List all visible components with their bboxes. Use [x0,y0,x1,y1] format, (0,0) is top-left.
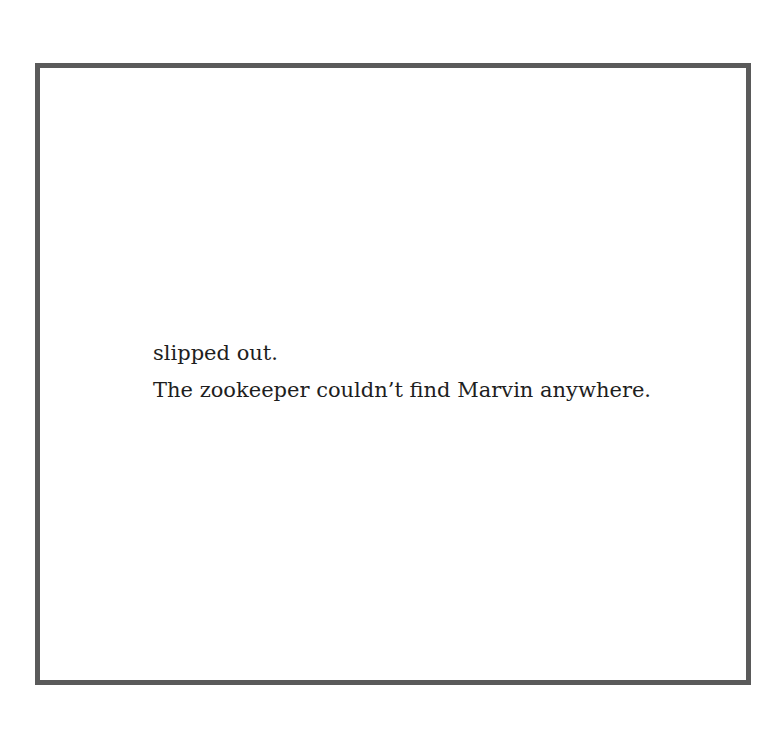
story-text: slipped out. The zookeeper couldn’t find… [153,335,651,409]
story-line-1: slipped out. [153,335,651,372]
story-line-2: The zookeeper couldn’t find Marvin anywh… [153,372,651,409]
page-frame: slipped out. The zookeeper couldn’t find… [35,63,751,685]
